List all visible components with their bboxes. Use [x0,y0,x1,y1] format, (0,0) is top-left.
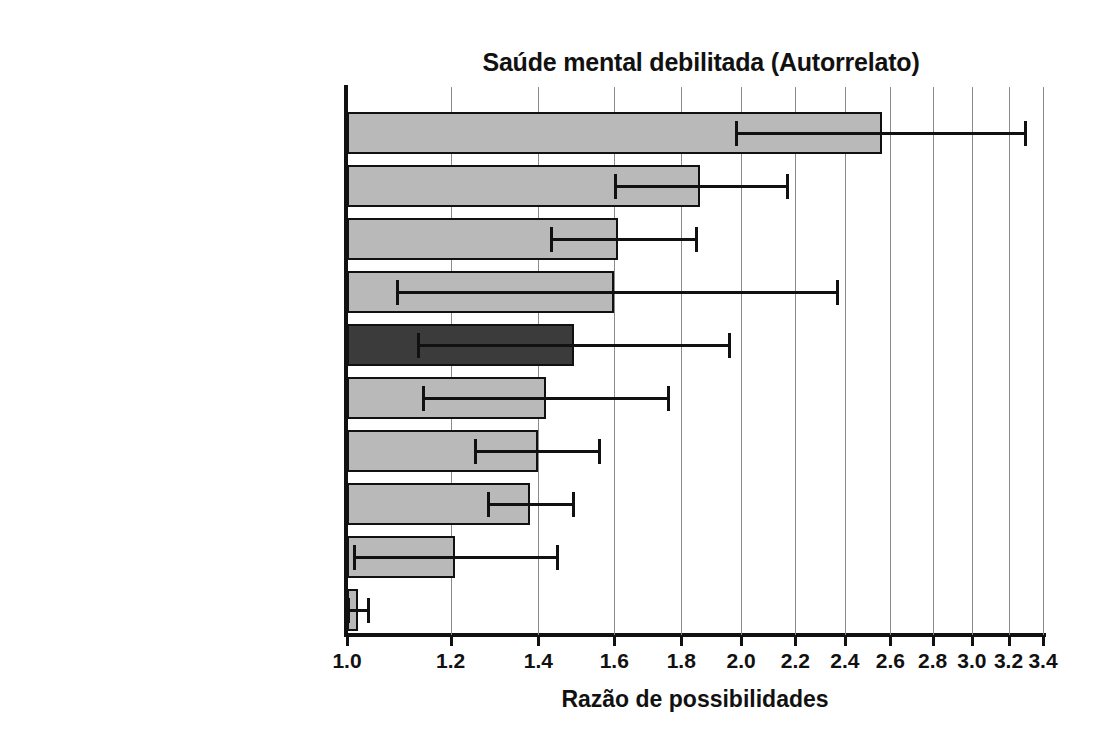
x-tick-mark [613,635,616,646]
error-bar-line [614,185,787,188]
x-tick-label: 2.2 [781,649,810,673]
x-tick-mark [537,635,540,646]
error-bar-line [396,291,838,294]
x-tick-mark [1042,635,1045,646]
error-bar-line [353,556,559,559]
x-tick-mark [844,635,847,646]
x-tick-mark [794,635,797,646]
error-bar-cap-upper [695,227,698,252]
error-bar-cap-lower [422,386,425,411]
error-bar-cap-upper [667,386,670,411]
x-tick-label: 2.0 [727,649,756,673]
error-bar-line [347,609,369,612]
error-bar-cap-lower [474,439,477,464]
bar-row: Insegurança no emprego [347,377,1043,419]
bar-row: Pouco controle sobre o trabalho [347,430,1043,472]
bar-row: Longas jornadas/horas extras [347,589,1043,631]
bar-row: Pouca equidade organizacional [347,271,1043,313]
error-bar-line [422,397,669,400]
bar-row: Desemprego [347,165,1043,207]
x-tick-mark [1008,635,1011,646]
error-bar-cap-lower [614,174,617,199]
error-bar-cap-upper [367,598,370,623]
error-bar-line [474,450,600,453]
bar-row: Exposição a trabalho por turnos [347,536,1043,578]
x-tick-label: 2.8 [918,649,947,673]
x-tick-label: 1.4 [524,649,553,673]
x-tick-label: 3.0 [957,649,986,673]
x-tick-mark [346,635,349,646]
error-bar-cap-lower [417,333,420,358]
x-tick-label: 1.2 [436,649,465,673]
x-tick-mark [932,635,935,646]
chart-figure: Saúde mental debilitada (Autorrelato) 1.… [0,0,1106,738]
x-tick-label: 3.4 [1028,649,1057,673]
x-tick-label: 1.8 [667,649,696,673]
error-bar-cap-lower [550,227,553,252]
error-bar-cap-lower [347,598,350,623]
error-bar-line [417,344,730,347]
x-tick-mark [971,635,974,646]
x-tick-mark [450,635,453,646]
error-bar-cap-lower [353,545,356,570]
error-bar-cap-upper [786,174,789,199]
bar-row: Exposição passiva ao tabaco [347,324,1043,366]
x-tick-label: 2.6 [876,649,905,673]
x-tick-mark [740,635,743,646]
error-bar-cap-upper [1024,121,1027,146]
bar-row: Altas demandas de serviço [347,218,1043,260]
gridline [1043,87,1044,635]
error-bar-line [487,503,573,506]
error-bar-cap-lower [396,280,399,305]
x-tick-label: 1.6 [600,649,629,673]
chart-title-text: Saúde mental debilitada (Autorrelato) [482,48,919,77]
bar-row: Pouco apoio social no trabalho [347,483,1043,525]
x-tick-mark [889,635,892,646]
error-bar-cap-upper [598,439,601,464]
error-bar-cap-upper [572,492,575,517]
x-tick-label: 2.4 [830,649,859,673]
x-tick-label: 1.0 [332,649,361,673]
error-bar-line [550,238,696,241]
error-bar-cap-lower [487,492,490,517]
chart-title: Saúde mental debilitada (Autorrelato) [0,48,1106,77]
plot-area: 1.01.21.41.61.82.02.22.42.62.83.03.23.4 … [347,87,1043,635]
bar-row: Conflito trabalho-família [347,112,1043,154]
x-tick-label: 3.2 [994,649,1023,673]
error-bar-cap-lower [735,121,738,146]
error-bar-cap-upper [728,333,731,358]
error-bar-line [735,132,1026,135]
error-bar-cap-upper [556,545,559,570]
x-tick-mark [680,635,683,646]
error-bar-cap-upper [836,280,839,305]
x-axis-title: Razão de possibilidades [347,686,1043,713]
